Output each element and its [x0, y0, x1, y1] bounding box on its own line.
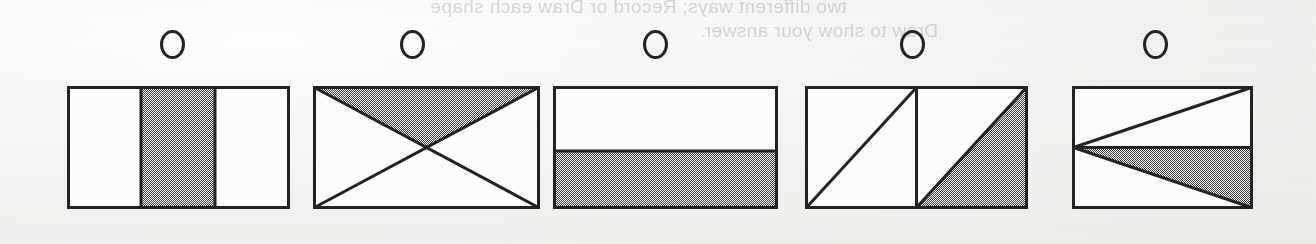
- answer-bubble-c[interactable]: [643, 30, 668, 59]
- shape-c-shaded-part: [555, 151, 777, 208]
- worksheet-page: two different ways; Record or Draw each …: [0, 0, 1316, 244]
- answer-bubble-d[interactable]: [900, 30, 925, 59]
- answer-bubble-e[interactable]: [1143, 30, 1168, 59]
- bleed-through-text-line-1: two different ways; Record or Draw each …: [430, 0, 847, 18]
- shape-option-a[interactable]: [67, 86, 290, 209]
- shape-option-e[interactable]: [1072, 86, 1253, 209]
- shape-a-shaded-part: [141, 88, 215, 208]
- shape-option-c[interactable]: [553, 86, 778, 209]
- shape-option-b[interactable]: [313, 86, 540, 209]
- answer-bubble-a[interactable]: [160, 30, 185, 59]
- answer-bubble-b[interactable]: [400, 30, 425, 59]
- shape-option-d[interactable]: [805, 86, 1028, 209]
